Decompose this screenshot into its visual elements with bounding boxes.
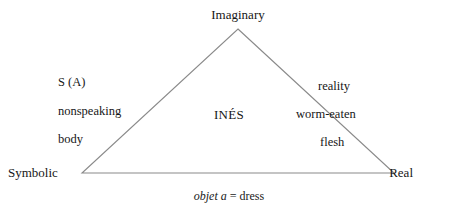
right-annotation-line-3: flesh	[320, 136, 344, 149]
vertex-label-real: Real	[389, 166, 413, 179]
caption-roman-part: = dress	[230, 189, 264, 203]
rsi-triangle-diagram: Imaginary Symbolic Real S (A) nonspeakin…	[0, 0, 452, 217]
right-annotation-line-1: reality	[318, 80, 350, 93]
left-annotation-line-2: nonspeaking	[58, 105, 121, 118]
triangle-shape	[82, 29, 394, 173]
diagram-caption: objet a = dress	[194, 189, 264, 204]
vertex-label-symbolic: Symbolic	[8, 166, 58, 179]
caption-italic-part: objet a	[194, 189, 227, 203]
center-label-ines: INÉS	[214, 108, 244, 121]
left-annotation-line-1: S (A)	[58, 76, 85, 89]
vertex-label-imaginary: Imaginary	[211, 8, 264, 21]
left-annotation-line-3: body	[58, 133, 83, 146]
right-annotation-line-2: worm-eaten	[296, 108, 356, 121]
